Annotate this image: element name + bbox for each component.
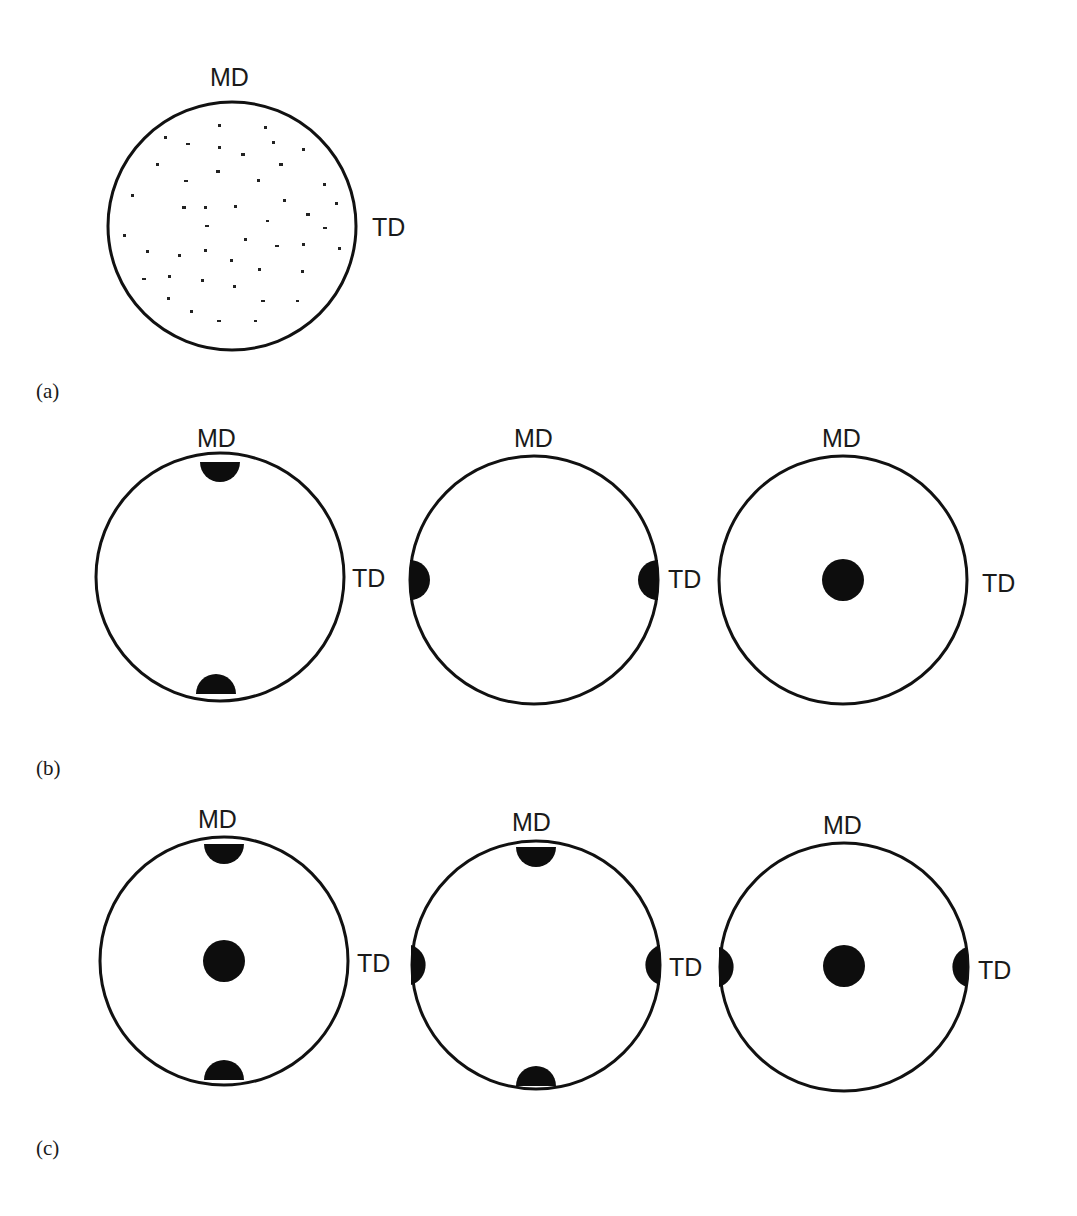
md-label: MD	[198, 805, 237, 833]
pole-top	[516, 847, 556, 867]
pole-figure-c3: MD TD	[719, 811, 1011, 1091]
td-label: TD	[978, 956, 1011, 984]
pole-center	[203, 940, 245, 982]
pole-top	[204, 844, 244, 864]
pole-figure-c2: MD TD	[411, 808, 702, 1089]
pole-center	[822, 559, 864, 601]
pole-figure-b1: MD TD	[96, 424, 385, 701]
pole-figure-c1: MD TD	[100, 805, 390, 1085]
md-label: MD	[514, 424, 553, 452]
md-label: MD	[210, 63, 249, 91]
pole-bottom	[516, 1066, 556, 1086]
pole-figure-circle	[410, 456, 658, 704]
pole-left	[719, 947, 734, 987]
pole-figure-b2: MD TD	[410, 424, 701, 704]
panel-caption: (c)	[36, 1136, 59, 1160]
pole-top	[200, 462, 240, 482]
panel-c: MD TD MD TD MD TD (c)	[36, 805, 1011, 1160]
md-label: MD	[822, 424, 861, 452]
pole-left	[411, 945, 426, 985]
td-label: TD	[352, 564, 385, 592]
pole-figure-circle	[412, 841, 660, 1089]
pole-bottom	[196, 674, 236, 694]
panel-a: MD TD	[36, 63, 405, 403]
pole-left	[410, 560, 430, 600]
td-label: TD	[668, 565, 701, 593]
pole-bottom	[204, 1060, 244, 1080]
panel-b: MD TD MD TD MD TD (b)	[36, 424, 1015, 780]
td-label: TD	[357, 949, 390, 977]
md-label: MD	[512, 808, 551, 836]
random-orientation-points	[123, 124, 341, 322]
pole-center	[823, 945, 865, 987]
pole-figure-b3: MD TD	[719, 424, 1015, 704]
pole-right	[638, 560, 658, 600]
pole-right	[645, 945, 660, 985]
pole-right	[952, 947, 967, 987]
pole-figure-circle	[108, 102, 356, 350]
td-label: TD	[982, 569, 1015, 597]
md-label: MD	[823, 811, 862, 839]
pole-figure-diagram: MD TD	[0, 0, 1077, 1216]
panel-caption: (a)	[36, 379, 59, 403]
td-label: TD	[372, 213, 405, 241]
md-label: MD	[197, 424, 236, 452]
td-label: TD	[669, 953, 702, 981]
pole-figure-circle	[96, 453, 344, 701]
panel-caption: (b)	[36, 756, 61, 780]
